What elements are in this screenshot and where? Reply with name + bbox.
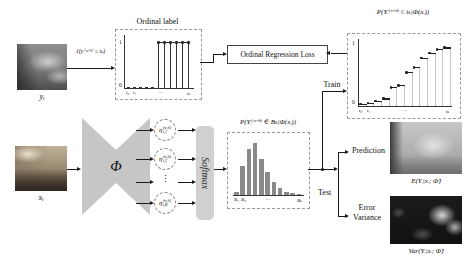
variance-caption: Var(Yᵢ|xᵢ; Φ̂): [386, 247, 466, 255]
x-tick: B₂: [241, 197, 246, 202]
error-variance-line1: Error: [346, 203, 388, 213]
arrow-line: [178, 130, 192, 131]
error-variance-label: Error Variance: [346, 203, 388, 222]
arrowhead-icon: [150, 180, 154, 184]
arrowhead-icon: [343, 89, 347, 93]
logit-node-K: η(w,h)i,K: [154, 192, 176, 214]
y-tick-zero: 0: [119, 82, 122, 88]
error-variance-line2: Variance: [346, 213, 388, 223]
logit-subscript: i,K: [163, 203, 171, 208]
arrowhead-icon: [192, 201, 196, 205]
logit-symbol: η: [159, 155, 162, 163]
ordinal-label-title: Ordinal label: [115, 17, 200, 26]
arrowhead-icon: [77, 167, 81, 171]
arrowhead-icon: [192, 157, 196, 161]
input-rgb-image: [15, 146, 67, 191]
arrowhead-icon: [326, 51, 330, 55]
target-image-label: yᵢ: [17, 92, 67, 101]
ordinal-label-plot: 1 0 t₀ t₁ ⋯ tₖ: [115, 29, 202, 100]
cdf-step-area: [359, 42, 451, 106]
vertical-dots: ⋮: [159, 174, 171, 184]
indicator-formula: 1(yᵢ⁽ʷʼʰ⁾ ≤ tₖ): [67, 47, 114, 54]
train-label: Train: [318, 80, 346, 89]
ordinal-stem-area: [125, 42, 193, 88]
arrow-line: [136, 130, 150, 131]
x-tick: t₁: [367, 108, 370, 113]
arrow-line: [322, 91, 343, 92]
logit-symbol: η: [159, 199, 162, 207]
ordinal-regression-loss-box: Ordinal Regression Loss: [227, 45, 328, 64]
softmax-bar: Softmax: [196, 126, 214, 220]
arrow-line: [200, 62, 214, 63]
logit-symbol: η: [159, 126, 162, 134]
arrowhead-icon: [111, 66, 115, 70]
input-image-label: xᵢ: [15, 193, 67, 202]
x-tick: ⋯: [265, 196, 270, 202]
logit-subscript: i,2: [163, 159, 171, 164]
arrow-line: [178, 182, 192, 183]
arrow-line: [214, 54, 223, 55]
x-tick: ⋯: [158, 89, 163, 95]
prediction-label: Prediction: [352, 146, 385, 155]
arrowhead-icon: [150, 157, 154, 161]
x-tick: t₀: [359, 108, 362, 113]
logit-subscript: i,1: [163, 130, 171, 135]
arrowhead-icon: [345, 150, 349, 154]
pmf-formula: P(Yᵢ⁽ʷʼʰ⁾ ∈ Bₖ|Φ(xᵢ)): [222, 118, 314, 126]
arrowhead-icon: [192, 180, 196, 184]
x-tick: t₁: [133, 90, 136, 95]
x-tick: Bₖ: [297, 197, 302, 203]
arrow-line: [67, 169, 77, 170]
bin-probability-plot: B₁ B₂ ⋯ Bₖ: [227, 132, 310, 209]
arrowhead-icon: [150, 201, 154, 205]
loss-box-label: Ordinal Regression Loss: [240, 50, 314, 59]
logit-node-2: η(w,h)i,2: [154, 148, 176, 170]
arrowhead-icon: [192, 128, 196, 132]
x-tick: ⋯: [402, 107, 407, 113]
x-tick: tₖ: [187, 90, 190, 96]
arrow-line: [136, 182, 150, 183]
y-tick-one: 1: [352, 40, 355, 46]
cumulative-probability-plot: 1 0 t₀ t₁ ⋯ tₖ: [347, 33, 461, 119]
x-tick: tₖ: [446, 108, 449, 114]
arrowhead-icon: [223, 167, 227, 171]
x-tick: B₁: [234, 197, 239, 202]
arrow-line: [322, 91, 323, 169]
encoder-symbol: Φ: [96, 158, 136, 175]
arrowhead-icon: [150, 128, 154, 132]
arrow-line: [67, 68, 111, 69]
arrowhead-icon: [223, 52, 227, 56]
target-depth-image: [17, 44, 67, 90]
arrow-line: [331, 53, 347, 54]
arrow-line: [213, 54, 214, 63]
arrow-line: [178, 159, 192, 160]
logit-node-1: η(w,h)i,1: [154, 119, 176, 141]
histogram-bar-area: [234, 141, 303, 195]
arrow-line: [214, 169, 223, 170]
x-tick: t₀: [126, 90, 129, 95]
arrow-line: [136, 203, 150, 204]
y-tick-zero: 0: [352, 99, 355, 105]
test-label: Test: [318, 188, 331, 197]
softmax-label: Softmax: [200, 157, 211, 189]
arrow-line: [136, 159, 150, 160]
arrow-line: [178, 203, 192, 204]
expectation-image: [390, 122, 462, 174]
y-tick-one: 1: [119, 39, 122, 45]
figure-canvas: yᵢ 1(yᵢ⁽ʷʼʰ⁾ ≤ tₖ) Ordinal label 1 0 t₀ …: [0, 0, 467, 266]
cdf-formula: P(Yᵢ⁽ʷʼʰ⁾ ≤ tₖ|Φ(xᵢ)): [345, 8, 461, 16]
arrow-line: [338, 152, 339, 217]
expectation-caption: E(Yᵢ|xᵢ; Φ̂): [386, 177, 466, 185]
variance-image: [390, 196, 462, 244]
